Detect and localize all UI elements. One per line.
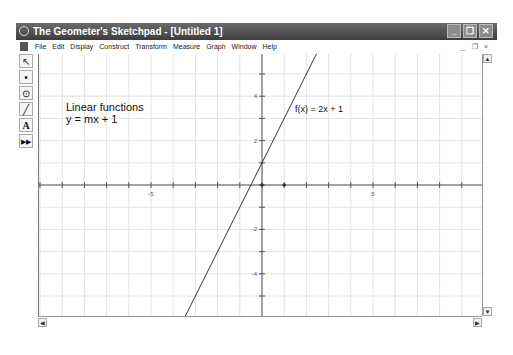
straightedge-tool-icon[interactable]: ╱ — [19, 102, 33, 116]
svg-text:-4: -4 — [252, 271, 258, 277]
app-icon — [19, 26, 29, 36]
window-title: The Geometer's Sketchpad - [Untitled 1] — [33, 23, 223, 40]
menu-construct[interactable]: Construct — [96, 40, 132, 53]
menu-bar: File Edit Display Construct Transform Me… — [16, 40, 497, 53]
svg-text:5: 5 — [371, 191, 375, 197]
menu-edit[interactable]: Edit — [49, 40, 67, 53]
point-tool-icon[interactable]: • — [19, 70, 33, 84]
menu-help[interactable]: Help — [260, 40, 280, 53]
doc-minimize-button[interactable]: _ — [461, 40, 465, 53]
caption-text[interactable]: Linear functions y = mx + 1 — [66, 101, 144, 125]
svg-text:-5: -5 — [148, 191, 154, 197]
scroll-right-button[interactable]: ▶ — [473, 318, 482, 327]
document-icon[interactable] — [20, 42, 28, 51]
menu-transform[interactable]: Transform — [132, 40, 170, 53]
close-button[interactable]: ✕ — [479, 24, 493, 38]
doc-close-button[interactable]: × — [484, 40, 488, 53]
scroll-down-button[interactable]: ▼ — [483, 307, 492, 316]
menu-graph[interactable]: Graph — [203, 40, 228, 53]
minimize-button[interactable]: _ — [447, 24, 461, 38]
function-label[interactable]: f(x) = 2x + 1 — [295, 104, 343, 114]
svg-text:-2: -2 — [252, 226, 258, 232]
sketch-canvas[interactable]: -5542-2-4-6 Linear functions y = mx + 1 … — [38, 54, 483, 316]
selection-arrow-tool-icon[interactable]: ↖ — [19, 54, 33, 68]
scroll-up-button[interactable]: ▲ — [483, 54, 492, 63]
toolbox: ↖ • ⊙ ╱ A ▶▶ — [19, 54, 34, 150]
horizontal-scrollbar[interactable]: ◀ ▶ — [38, 316, 482, 328]
maximize-button[interactable]: ❐ — [463, 24, 477, 38]
caption-line-2: y = mx + 1 — [66, 113, 144, 125]
text-tool-icon[interactable]: A — [19, 118, 33, 132]
caption-line-1: Linear functions — [66, 101, 144, 113]
sketchpad-window: The Geometer's Sketchpad - [Untitled 1] … — [16, 23, 497, 341]
compass-tool-icon[interactable]: ⊙ — [19, 86, 33, 100]
scroll-left-button[interactable]: ◀ — [38, 318, 47, 327]
title-bar[interactable]: The Geometer's Sketchpad - [Untitled 1] … — [16, 23, 497, 40]
menu-file[interactable]: File — [32, 40, 49, 53]
menu-window[interactable]: Window — [229, 40, 260, 53]
menu-display[interactable]: Display — [67, 40, 96, 53]
coordinate-graph: -5542-2-4-6 — [39, 54, 483, 316]
custom-tool-icon[interactable]: ▶▶ — [19, 134, 33, 148]
menu-measure[interactable]: Measure — [170, 40, 203, 53]
vertical-scrollbar[interactable]: ▲ ▼ — [482, 54, 493, 316]
doc-restore-button[interactable]: ❐ — [472, 40, 478, 53]
